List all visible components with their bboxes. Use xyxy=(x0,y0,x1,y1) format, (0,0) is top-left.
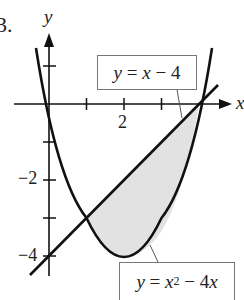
line-equation-label: y = x − 4 xyxy=(97,55,197,90)
y-tick-label-neg2: −2 xyxy=(18,168,37,189)
y-axis-arrow-icon xyxy=(44,33,54,47)
x-axis-arrow-icon xyxy=(219,99,232,109)
x-tick-label-2: 2 xyxy=(118,112,127,133)
parabola-equation-label: y = x2 − 4x xyxy=(119,262,235,300)
x-axis-label: x xyxy=(236,92,244,114)
graph-figure: 3. y x 2 xyxy=(0,0,244,300)
y-tick-label-neg4: −4 xyxy=(18,245,37,266)
parabola-label-leader xyxy=(150,245,158,262)
y-axis-label: y xyxy=(44,6,52,28)
